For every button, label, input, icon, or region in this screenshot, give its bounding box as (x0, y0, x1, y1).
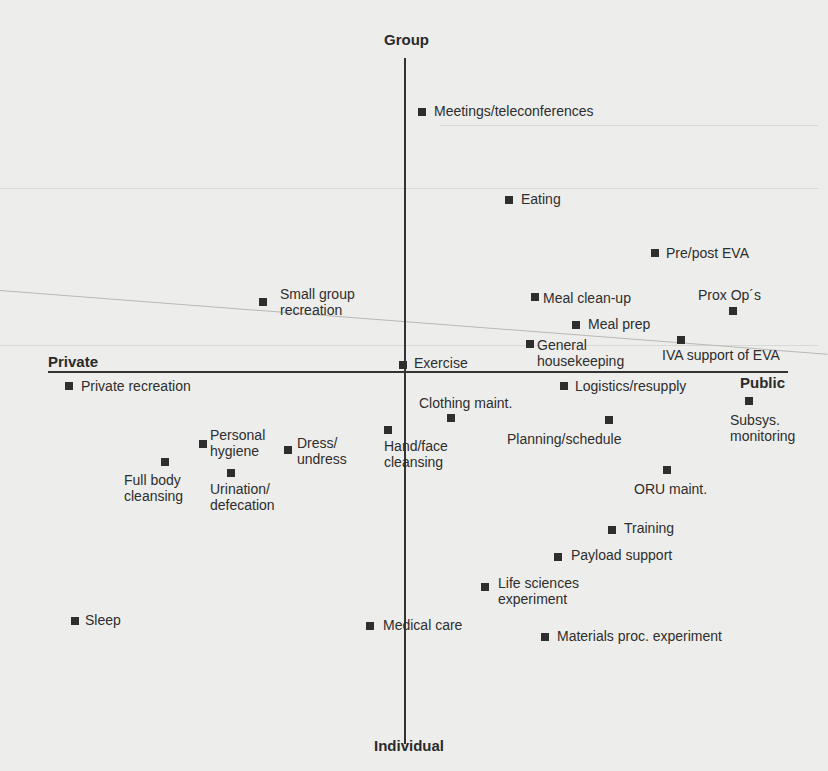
activity-medical-care: Medical care (383, 617, 462, 633)
marker-icon (284, 446, 292, 454)
marker-icon (560, 382, 568, 390)
activity-general-housekeeping: General housekeeping (537, 337, 624, 369)
activity-prox-ops: Prox Op´s (698, 287, 761, 303)
activity-pre-post-eva: Pre/post EVA (666, 245, 749, 261)
activity-private-recreation: Private recreation (81, 378, 191, 394)
marker-icon (677, 336, 685, 344)
marker-icon (447, 414, 455, 422)
marker-icon (531, 293, 539, 301)
horizontal-axis (48, 371, 788, 373)
marker-icon (605, 416, 613, 424)
marker-icon (729, 307, 737, 315)
activity-materials-proc-experiment: Materials proc. experiment (557, 628, 722, 644)
activity-planning-schedule: Planning/schedule (507, 431, 621, 447)
activity-training: Training (624, 520, 674, 536)
activity-urination-defecation: Urination/ defecation (210, 481, 275, 513)
marker-icon (384, 426, 392, 434)
marker-icon (572, 321, 580, 329)
activity-subsys-monitoring: Subsys. monitoring (730, 412, 795, 444)
activity-sleep: Sleep (85, 612, 121, 628)
marker-icon (161, 458, 169, 466)
marker-icon (227, 469, 235, 477)
axis-label-group: Group (384, 31, 429, 48)
marker-icon (745, 397, 753, 405)
marker-icon (505, 196, 513, 204)
activity-exercise: Exercise (414, 355, 468, 371)
activity-eating: Eating (521, 191, 561, 207)
marker-icon (526, 340, 534, 348)
marker-icon (418, 108, 426, 116)
activity-clothing-maint: Clothing maint. (419, 395, 512, 411)
activity-logistics-resupply: Logistics/resupply (575, 378, 686, 394)
marker-icon (651, 249, 659, 257)
marker-icon (541, 633, 549, 641)
vertical-axis (404, 58, 406, 744)
activity-payload-support: Payload support (571, 547, 672, 563)
activity-full-body-cleansing: Full body cleansing (124, 472, 183, 504)
activity-iva-support-of-eva: IVA support of EVA (662, 347, 780, 363)
activity-dress-undress: Dress/ undress (297, 435, 347, 467)
marker-icon (663, 466, 671, 474)
activity-oru-maint: ORU maint. (634, 481, 707, 497)
marker-icon (481, 583, 489, 591)
marker-icon (608, 526, 616, 534)
marker-icon (399, 361, 407, 369)
marker-icon (259, 298, 267, 306)
marker-icon (71, 617, 79, 625)
axis-label-private: Private (48, 353, 98, 370)
activity-life-sciences-experiment: Life sciences experiment (498, 575, 579, 607)
activity-hand-face-cleansing: Hand/face cleansing (384, 438, 448, 470)
axis-label-individual: Individual (374, 737, 444, 754)
activity-meal-clean-up: Meal clean-up (543, 290, 631, 306)
activity-small-group-recreation: Small group recreation (280, 286, 355, 318)
activity-personal-hygiene: Personal hygiene (210, 427, 265, 459)
axis-label-public: Public (740, 374, 785, 391)
marker-icon (199, 440, 207, 448)
activity-meal-prep: Meal prep (588, 316, 650, 332)
marker-icon (65, 382, 73, 390)
marker-icon (366, 622, 374, 630)
marker-icon (554, 553, 562, 561)
activity-meetings: Meetings/teleconferences (434, 103, 594, 119)
